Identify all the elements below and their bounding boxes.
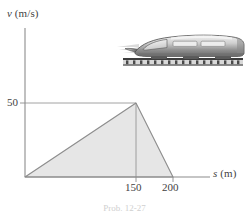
figure-container: v (m/s) s (m) 50 150 200 (0, 0, 249, 212)
train-nose (125, 48, 137, 52)
train-skirt (139, 53, 243, 56)
velocity-profile-fill (25, 103, 173, 177)
x-tick-label-150: 150 (125, 181, 142, 193)
x-axis-label: s (m) (213, 167, 236, 179)
y-tick-label-50: 50 (7, 96, 18, 108)
rail-track (123, 58, 243, 66)
y-axis-label-unit: (m/s) (12, 7, 39, 19)
high-speed-train-illustration (117, 30, 245, 68)
x-axis-label-unit: (m) (217, 167, 236, 179)
x-tick-label-200: 200 (162, 181, 179, 193)
figure-caption: Prob. 12-27 (0, 203, 249, 212)
y-axis-label: v (m/s) (7, 7, 39, 19)
